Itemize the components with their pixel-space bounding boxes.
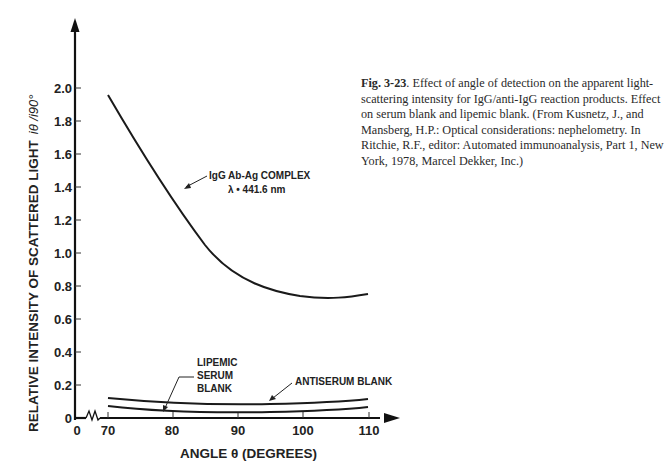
x-tick-110: 110	[359, 423, 380, 438]
series-antiserum-blank	[108, 398, 368, 404]
x-axis-title: ANGLE θ (DEGREES)	[180, 446, 317, 461]
y-tick-0.4: 0.4	[54, 345, 73, 360]
y-tick-1.4: 1.4	[54, 180, 73, 195]
lipemic-label-1: LIPEMIC	[197, 357, 238, 368]
x-tick-80: 80	[165, 423, 179, 438]
y-tick-0.8: 0.8	[54, 279, 72, 294]
antiserum-leader-line	[273, 383, 292, 398]
y-tick-1.8: 1.8	[54, 114, 72, 129]
y-axis-title: RELATIVE INTENSITY OF SCATTERED LIGHTiθ …	[26, 95, 41, 432]
igg-label: IgG Ab-Ag COMPLEX	[209, 170, 311, 181]
y-tick-0: 0	[65, 411, 72, 426]
axis-break-icon	[86, 411, 100, 420]
series-igg-ab-ag-complex	[108, 95, 368, 298]
antiserum-label: ANTISERUM BLANK	[295, 376, 393, 387]
igg-wavelength-label: λ • 441.6 nm	[228, 184, 286, 195]
lipemic-label-2: SERUM	[197, 370, 233, 381]
igg-leader-arrow-icon	[184, 183, 191, 189]
scattering-intensity-chart: 0 70 80 90 100 110 0 0.2 0.4 0.6 0.8 1.0…	[0, 0, 671, 471]
y-tick-1.2: 1.2	[54, 213, 72, 228]
y-tick-2.0: 2.0	[54, 81, 72, 96]
y-axis-arrow-icon	[71, 18, 80, 32]
figure-label: Fig. 3-23	[361, 76, 406, 90]
figure-caption: Fig. 3-23. Effect of angle of detection …	[361, 76, 671, 170]
x-tick-100: 100	[292, 423, 314, 438]
y-tick-1.0: 1.0	[54, 246, 72, 261]
x-tick-90: 90	[231, 423, 245, 438]
x-tick-70: 70	[101, 423, 115, 438]
y-tick-0.2: 0.2	[54, 378, 72, 393]
lipemic-label-3: BLANK	[197, 383, 233, 394]
x-tick-0: 0	[73, 423, 80, 438]
y-tick-0.6: 0.6	[54, 312, 72, 327]
y-tick-1.6: 1.6	[54, 147, 72, 162]
series-lipemic-serum-blank	[108, 406, 368, 412]
x-axis-arrow-icon	[384, 413, 400, 423]
caption-text: . Effect of angle of detection on the ap…	[361, 76, 664, 168]
